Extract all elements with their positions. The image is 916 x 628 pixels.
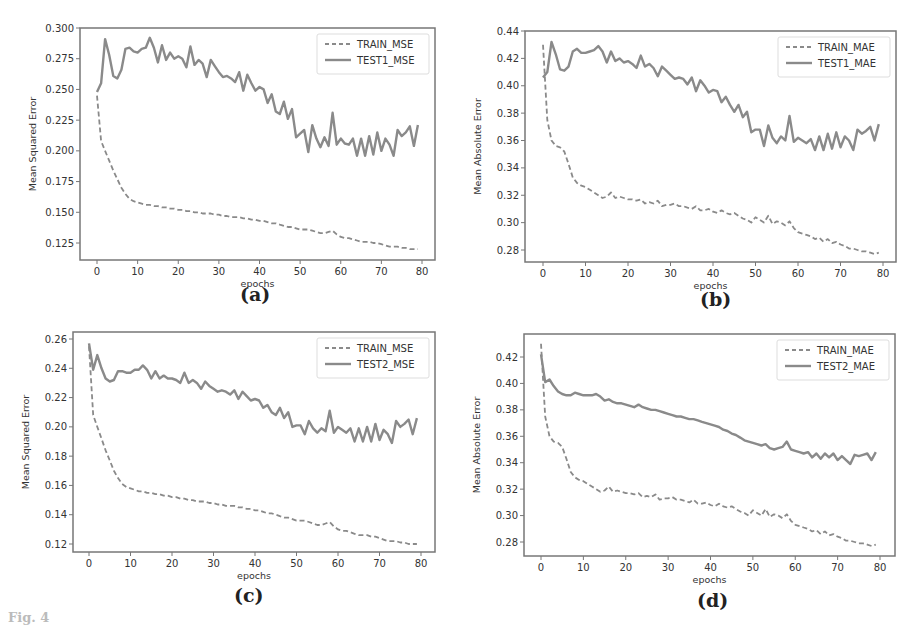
panel-label-d: (d) <box>697 589 728 611</box>
x-tick-label: 60 <box>789 562 802 573</box>
x-axis-label: epochs <box>693 574 727 585</box>
y-axis-label: Mean Absolute Error <box>471 397 482 494</box>
figure-caption: Fig. 4 <box>8 610 49 625</box>
y-tick-label: 0.36 <box>496 431 518 442</box>
y-tick-label: 0.30 <box>496 510 518 521</box>
x-tick-label: 20 <box>619 562 632 573</box>
y-tick-label: 0.32 <box>496 484 518 495</box>
chart-panel-d: 010203040506070800.280.300.320.340.360.3… <box>0 0 916 628</box>
legend: TRAIN_MAETEST2_MAE <box>777 340 889 380</box>
y-tick-label: 0.42 <box>496 352 518 363</box>
legend-entry: TEST2_MAE <box>816 361 875 373</box>
plot-d: 010203040506070800.280.300.320.340.360.3… <box>0 0 916 628</box>
y-tick-label: 0.38 <box>496 404 518 415</box>
x-tick-label: 70 <box>831 562 844 573</box>
legend-entry: TRAIN_MAE <box>816 345 874 357</box>
x-tick-label: 30 <box>662 562 675 573</box>
x-tick-label: 80 <box>874 562 887 573</box>
y-tick-label: 0.40 <box>496 378 518 389</box>
y-tick-label: 0.34 <box>496 457 518 468</box>
x-tick-label: 50 <box>747 562 760 573</box>
y-tick-label: 0.28 <box>496 537 518 548</box>
x-tick-label: 0 <box>538 562 544 573</box>
x-tick-label: 10 <box>577 562 590 573</box>
x-tick-label: 40 <box>704 562 717 573</box>
